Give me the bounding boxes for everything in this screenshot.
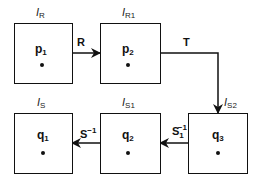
point-label-q1: q1 xyxy=(37,128,49,143)
point-label-p2: p2 xyxy=(122,42,134,57)
point-dot-p1 xyxy=(40,63,44,67)
edge-label-t: T xyxy=(183,36,190,48)
point-dot-q3 xyxy=(216,151,220,155)
node-box-q1: q1 xyxy=(14,113,73,174)
point-dot-q1 xyxy=(41,151,45,155)
point-dot-q2 xyxy=(126,151,130,155)
point-label-q3: q3 xyxy=(212,128,224,143)
domain-label-is2: IS2 xyxy=(224,96,237,110)
arrow-t xyxy=(160,53,218,113)
node-box-q2: q2 xyxy=(100,113,161,174)
domain-label-ir: IR xyxy=(36,6,45,20)
node-box-p1: p1 xyxy=(14,23,73,84)
point-label-q2: q2 xyxy=(122,128,134,143)
edge-label-s1-inverse: S1−1 xyxy=(172,123,187,140)
node-box-q3: q3 xyxy=(188,113,248,174)
domain-label-is1: IS1 xyxy=(122,96,135,110)
point-dot-p2 xyxy=(126,63,130,67)
edge-label-s-inverse: S−1 xyxy=(80,126,96,140)
point-label-p1: p1 xyxy=(35,42,47,57)
node-box-p2: p2 xyxy=(100,23,161,84)
domain-label-is: IS xyxy=(37,96,45,110)
edge-label-r: R xyxy=(77,36,85,48)
domain-label-ir1: IR1 xyxy=(122,6,135,20)
